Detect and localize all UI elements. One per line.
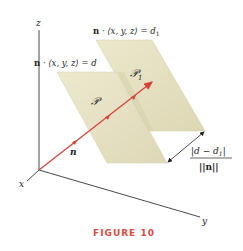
z-axis-label: z	[35, 18, 41, 28]
normal-vector-label: n	[70, 147, 77, 157]
plane-p1-equation: n · ⟨x, y, z⟩ = d1	[93, 26, 159, 37]
x-axis-label: x	[19, 179, 24, 189]
y-axis-label: y	[201, 216, 208, 226]
figure-canvas: z x y n · ⟨x, y, z⟩ = d1 n · ⟨x, y, z⟩ =…	[0, 0, 243, 251]
distance-numerator: |d − d1|	[191, 146, 226, 157]
x-axis	[27, 170, 39, 181]
y-axis	[39, 170, 200, 217]
distance-denominator: ||n||	[199, 162, 219, 173]
plane-p-equation: n · ⟨x, y, z⟩ = d	[34, 58, 97, 68]
figure-caption: FIGURE 10	[93, 228, 155, 238]
